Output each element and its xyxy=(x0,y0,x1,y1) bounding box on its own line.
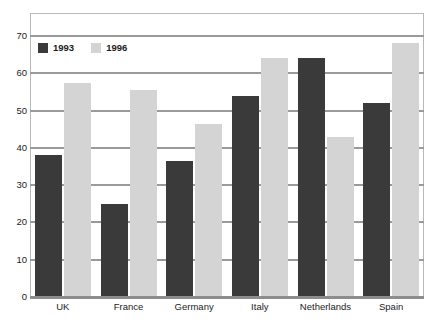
bars-group xyxy=(30,13,424,297)
y-tick-label-10: 10 xyxy=(3,255,27,265)
chart-legend: 1993 1996 xyxy=(38,43,127,53)
bar-chart: 010203040506070 UKFranceGermanyItalyNeth… xyxy=(0,0,437,322)
x-tick-label-france: France xyxy=(96,302,162,312)
y-tick-label-30: 30 xyxy=(3,180,27,190)
x-tick-label-uk: UK xyxy=(30,302,96,312)
x-axis-line xyxy=(30,296,424,299)
y-tick-label-40: 40 xyxy=(3,143,27,153)
y-tick-label-70: 70 xyxy=(3,31,27,41)
x-tick-label-italy: Italy xyxy=(227,302,293,312)
y-axis: 010203040506070 xyxy=(0,0,27,322)
bar-spain-1993 xyxy=(363,103,390,297)
bar-spain-1996 xyxy=(392,43,419,297)
x-tick-label-germany: Germany xyxy=(161,302,227,312)
y-tick-label-50: 50 xyxy=(3,106,27,116)
x-tick-label-spain: Spain xyxy=(358,302,424,312)
x-tick-label-netherlands: Netherlands xyxy=(293,302,359,312)
bar-italy-1993 xyxy=(232,96,259,297)
bar-france-1996 xyxy=(130,90,157,297)
bar-germany-1996 xyxy=(195,124,222,297)
legend-swatch-1996-icon xyxy=(91,43,101,53)
bar-italy-1996 xyxy=(261,58,288,297)
legend-swatch-1993-icon xyxy=(38,43,48,53)
bar-germany-1993 xyxy=(166,161,193,297)
legend-label-1996: 1996 xyxy=(106,43,127,53)
y-tick-label-0: 0 xyxy=(3,292,27,302)
legend-item-1996: 1996 xyxy=(91,43,127,53)
bar-uk-1996 xyxy=(64,83,91,297)
x-axis: UKFranceGermanyItalyNetherlandsSpain xyxy=(30,300,424,320)
y-tick-label-20: 20 xyxy=(3,217,27,227)
bar-france-1993 xyxy=(101,204,128,297)
y-tick-label-60: 60 xyxy=(3,68,27,78)
bar-netherlands-1996 xyxy=(327,137,354,297)
legend-label-1993: 1993 xyxy=(53,43,74,53)
legend-item-1993: 1993 xyxy=(38,43,74,53)
bar-uk-1993 xyxy=(35,155,62,297)
bar-netherlands-1993 xyxy=(298,58,325,297)
